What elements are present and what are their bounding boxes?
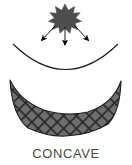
ray-right xyxy=(75,26,89,41)
incident-rays-group xyxy=(42,26,89,45)
caption-label: CONCAVE xyxy=(32,146,100,161)
ray-left xyxy=(42,26,56,41)
concave-arc xyxy=(13,44,118,70)
concave-diagram-svg: CONCAVE xyxy=(0,0,132,165)
surface-shape xyxy=(10,80,121,136)
concave-surface-body xyxy=(10,80,121,136)
figure-root: CONCAVE xyxy=(0,0,132,165)
